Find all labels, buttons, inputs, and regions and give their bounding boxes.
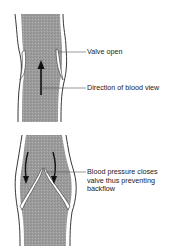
label-valve-open: Valve open bbox=[87, 48, 122, 56]
vein-lumen-closed bbox=[20, 135, 72, 246]
label-backflow-line-3: backflow bbox=[87, 185, 115, 193]
vein-wall-right bbox=[61, 14, 67, 122]
vein-closed-panel bbox=[15, 135, 86, 246]
label-direction-of-blood: Direction of blood view bbox=[87, 84, 159, 92]
vein-valve-diagram bbox=[0, 0, 174, 248]
vein-wall-left bbox=[15, 14, 21, 122]
vein-open-panel bbox=[15, 14, 86, 122]
